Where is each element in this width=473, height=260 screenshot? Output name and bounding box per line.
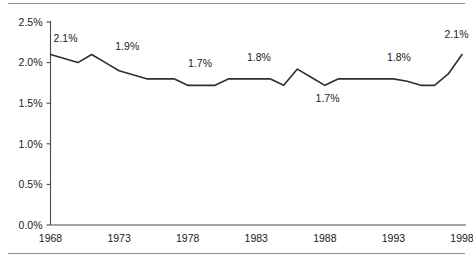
y-axis-tick-label: 0.0% (19, 219, 43, 231)
data-point-label: 1.8% (247, 51, 271, 63)
y-axis-tick-label: 1.5% (19, 97, 43, 109)
y-axis: 0.0%0.5%1.0%1.5%2.0%2.5% (19, 16, 51, 231)
chart-page: 0.0%0.5%1.0%1.5%2.0%2.5% 196819731978198… (0, 0, 473, 260)
data-point-label: 2.1% (54, 32, 78, 44)
y-axis-tick-label: 1.0% (19, 138, 43, 150)
line-chart-svg: 0.0%0.5%1.0%1.5%2.0%2.5% 196819731978198… (0, 0, 473, 260)
data-point-label: 1.7% (316, 92, 340, 104)
data-point-label: 1.9% (115, 40, 139, 52)
y-axis-tick-label: 0.5% (19, 178, 43, 190)
line-chart-figure: 0.0%0.5%1.0%1.5%2.0%2.5% 196819731978198… (0, 0, 473, 260)
data-point-label: 1.8% (387, 51, 411, 63)
x-axis-tick-label: 1968 (39, 232, 63, 244)
x-axis-tick-label: 1973 (107, 232, 131, 244)
y-axis-tick-label: 2.5% (19, 16, 43, 28)
x-axis-tick-label: 1983 (245, 232, 269, 244)
data-point-label: 1.7% (188, 57, 212, 69)
data-point-label: 2.1% (445, 28, 469, 40)
x-axis-tick-label: 1993 (382, 232, 406, 244)
y-axis-tick-label: 2.0% (19, 56, 43, 68)
x-axis: 1968197319781983198819931998 (39, 225, 473, 244)
x-axis-tick-label: 1978 (176, 232, 200, 244)
x-axis-tick-label: 1988 (313, 232, 337, 244)
x-axis-tick-label: 1998 (450, 232, 473, 244)
data-labels: 2.1%1.9%1.7%1.8%1.7%1.8%2.1% (54, 28, 469, 103)
